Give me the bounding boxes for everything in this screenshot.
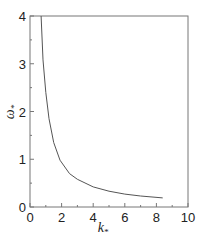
x-tick-label: 0: [26, 210, 33, 225]
data-series: [41, 16, 163, 198]
x-tick-label: 10: [181, 210, 195, 225]
y-tick-label: 0: [19, 200, 26, 215]
y-tick-label: 2: [19, 105, 26, 120]
y-tick-label: 3: [19, 57, 26, 72]
y-tick-label: 1: [19, 152, 26, 167]
y-axis-label: ω*: [2, 104, 19, 119]
x-axis-ticks: 0246810: [26, 203, 195, 225]
plot-frame: [30, 16, 188, 207]
x-axis-label: k*: [98, 220, 109, 237]
chart: 0246810 01234 k* ω*: [0, 0, 202, 244]
y-axis-ticks: 01234: [19, 9, 34, 215]
y-tick-label: 4: [19, 9, 26, 24]
dispersion-curve: [41, 16, 163, 198]
x-tick-label: 6: [121, 210, 128, 225]
x-tick-label: 8: [153, 210, 160, 225]
x-tick-label: 4: [90, 210, 97, 225]
x-tick-label: 2: [58, 210, 65, 225]
